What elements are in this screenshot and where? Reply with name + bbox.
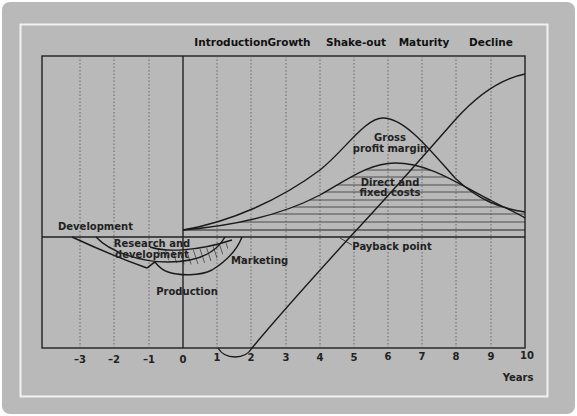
stage-shake-out: Shake-out: [326, 36, 386, 48]
label-gross-2: profit margin: [353, 143, 427, 154]
label-marketing: Marketing: [231, 255, 288, 266]
svg-text:–2: –2: [108, 354, 120, 365]
label-rd-1: Research and: [114, 238, 190, 249]
stage-maturity: Maturity: [399, 36, 450, 48]
svg-text:10: 10: [520, 350, 534, 361]
label-rd-2: development: [115, 249, 189, 260]
stage-decline: Decline: [469, 36, 513, 48]
label-production: Production: [156, 286, 218, 297]
x-axis-label: Years: [502, 372, 534, 383]
svg-text:3: 3: [283, 352, 290, 363]
label-development: Development: [58, 221, 133, 232]
payback-leader: [340, 238, 352, 245]
svg-text:1: 1: [214, 352, 221, 363]
svg-text:7: 7: [419, 351, 426, 362]
label-gross-1: Gross: [374, 132, 406, 143]
svg-text:0: 0: [180, 354, 187, 365]
svg-text:–1: –1: [143, 354, 155, 365]
grid-lines: [80, 56, 491, 348]
svg-text:5: 5: [351, 352, 358, 363]
stage-labels: Introduction Growth Shake-out Maturity D…: [194, 36, 513, 48]
stage-introduction: Introduction: [194, 36, 267, 48]
plot-area: [42, 56, 525, 348]
x-axis-ticks: –3 –2 –1 0 1 2 3 4 5 6 7 8 9 10: [74, 350, 534, 365]
svg-text:4: 4: [317, 352, 324, 363]
gross-profit-curve: [183, 118, 525, 230]
stage-growth: Growth: [267, 36, 310, 48]
lifecycle-diagram: Introduction Growth Shake-out Maturity D…: [0, 0, 577, 416]
svg-text:8: 8: [453, 351, 460, 362]
svg-text:–3: –3: [74, 354, 86, 365]
svg-text:2: 2: [248, 352, 255, 363]
svg-text:9: 9: [488, 351, 495, 362]
cash-flow-curve: [218, 74, 525, 357]
svg-text:6: 6: [385, 351, 392, 362]
label-costs-2: fixed costs: [360, 187, 421, 198]
label-payback: Payback point: [352, 241, 432, 252]
